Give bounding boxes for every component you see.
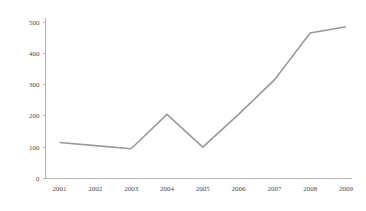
x-axis-tick-label: 2001 — [53, 185, 68, 193]
x-axis-tick-label: 2002 — [88, 185, 103, 193]
line-chart-figure: 0100200300400500 20012002200320042005200… — [0, 0, 366, 211]
x-axis-tick-label: 2003 — [124, 185, 139, 193]
y-axis-tick-label: 0 — [36, 175, 40, 183]
y-axis-tick-label: 100 — [29, 144, 40, 152]
x-axis-tick-label: 2007 — [267, 185, 282, 193]
x-axis-tick-label: 2005 — [196, 185, 211, 193]
x-axis-tick-label: 2008 — [303, 185, 318, 193]
y-axis-tick-label: 500 — [29, 19, 40, 27]
x-axis-tick-label: 2009 — [339, 185, 354, 193]
y-axis-tick-label: 200 — [29, 112, 40, 120]
chart-canvas: 0100200300400500 20012002200320042005200… — [0, 0, 366, 211]
y-axis-tick-label: 400 — [29, 50, 40, 58]
x-axis-tick-label: 2006 — [232, 185, 247, 193]
x-axis-tick-label: 2004 — [160, 185, 175, 193]
chart-background — [0, 0, 366, 211]
y-axis-tick-label: 300 — [29, 81, 40, 89]
x-axis-tick-labels: 200120022003200420052006200720082009 — [53, 185, 354, 193]
